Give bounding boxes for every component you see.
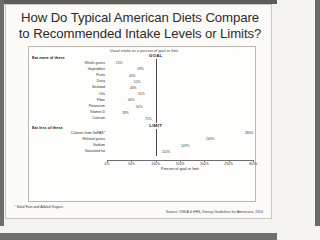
source-credit: Source: USDA & HHS, Dietary Guidelines f… xyxy=(166,210,263,214)
bar-value-label: 42% xyxy=(129,74,136,78)
photographed-slide-background: How Do Typical American Diets Compare to… xyxy=(0,0,277,226)
bar-value-label: 75% xyxy=(145,117,152,121)
bar-row: Calcium75% xyxy=(29,117,253,121)
bar-value-label: 110% xyxy=(162,150,170,154)
reference-line-label-goal: GOAL xyxy=(149,53,163,58)
chart-subtitle: Usual intake as a percent of goal or lim… xyxy=(69,49,219,53)
x-axis-tick-label: 100% xyxy=(151,162,160,166)
bar-row: Dairy52% xyxy=(29,80,253,84)
slide-card: How Do Typical American Diets Compare to… xyxy=(5,4,272,219)
bar-value-label: 280% xyxy=(245,131,253,135)
bar-category-label: Potassium xyxy=(35,104,105,108)
bar-row: Saturated fat110% xyxy=(29,150,253,154)
chart-frame: Usual intake as a percent of goal or lim… xyxy=(28,46,256,202)
x-axis-tick-label: 50% xyxy=(128,162,135,166)
x-axis-title: Percent of goal or limit xyxy=(100,167,260,171)
x-axis-tick-label: 0% xyxy=(105,162,110,166)
bar-category-label: Sodium xyxy=(35,143,105,147)
bar-row: Vitamin D28% xyxy=(29,111,253,115)
x-axis-tick-label: 250% xyxy=(224,162,233,166)
x-axis-tick-label: 150% xyxy=(176,162,185,166)
bar-row: Fiber40% xyxy=(29,98,253,102)
photo-edge-left xyxy=(0,0,4,226)
bar-value-label: 200% xyxy=(206,137,214,141)
x-axis-tick-label: 200% xyxy=(200,162,209,166)
reference-line-label-limit: LIMIT xyxy=(149,123,162,128)
bar-value-label: 56% xyxy=(136,105,143,109)
bar-value-label: 28% xyxy=(122,111,129,115)
bar-row: Vegetables59% xyxy=(29,67,253,71)
bar-row: Sodium149% xyxy=(29,143,253,147)
bar-row: Calories from SoFAS*280% xyxy=(29,131,253,135)
bar-row: Fruits42% xyxy=(29,73,253,77)
bar-value-label: 59% xyxy=(137,67,144,71)
bar-row: Seafood44% xyxy=(29,86,253,90)
bar-row: Oils61% xyxy=(29,92,253,96)
page-title: How Do Typical American Diets Compare to… xyxy=(16,10,264,41)
bar-category-label: Oils xyxy=(35,92,105,96)
bar-category-label: Refined grains xyxy=(35,137,105,141)
bar-category-label: Fruits xyxy=(35,73,105,77)
bar-value-label: 44% xyxy=(130,86,137,90)
bar-row: Whole grains15% xyxy=(29,61,253,65)
bar-category-label: Vegetables xyxy=(35,67,105,71)
bar-value-label: 61% xyxy=(138,92,145,96)
bar-row: Refined grains200% xyxy=(29,137,253,141)
bar-category-label: Dairy xyxy=(35,79,105,83)
bar-category-label: Whole grains xyxy=(35,61,105,65)
bar-category-label: Seafood xyxy=(35,85,105,89)
bar-row: Potassium56% xyxy=(29,104,253,108)
bar-value-label: 149% xyxy=(181,144,189,148)
footnote: * Solid Fats and Added Sugars xyxy=(14,205,63,209)
group-heading-eat-more: Eat more of these xyxy=(32,55,65,60)
bar-value-label: 15% xyxy=(116,61,123,65)
bar-category-label: Saturated fat xyxy=(35,149,105,153)
group-heading-eat-less: Eat less of these xyxy=(32,125,63,130)
bar-category-label: Vitamin D xyxy=(35,110,105,114)
reference-line-limit xyxy=(156,129,157,157)
bar-value-label: 52% xyxy=(134,80,141,84)
reference-line-goal xyxy=(156,59,157,124)
bar-category-label: Calories from SoFAS* xyxy=(35,131,105,135)
x-axis-tick-label: 300% xyxy=(249,162,258,166)
bar-category-label: Calcium xyxy=(35,116,105,120)
bar-value-label: 40% xyxy=(128,98,135,102)
bar-category-label: Fiber xyxy=(35,98,105,102)
